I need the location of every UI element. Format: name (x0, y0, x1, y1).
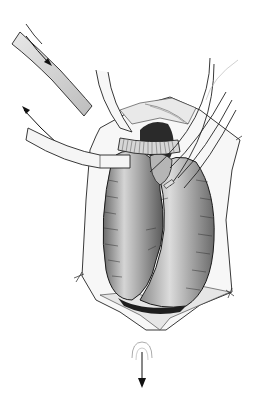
surgical-illustration (0, 0, 258, 418)
outflow-arrowhead-icon (22, 106, 30, 114)
drain-arrowhead-icon (138, 378, 146, 388)
heart (103, 151, 214, 314)
venous-cannula-tube (12, 24, 92, 116)
